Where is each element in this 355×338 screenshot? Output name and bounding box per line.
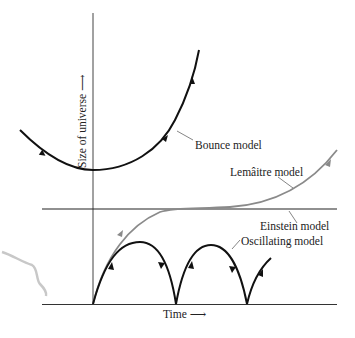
scan-artifact-mark: [2, 252, 46, 296]
oscillating-arrow-icon: [229, 266, 236, 273]
universe-models-diagram: Size of universe ⟶ Time ⟶ Bounce model L…: [0, 0, 355, 338]
bounce-model-label: Bounce model: [195, 139, 262, 151]
lemaitre-arrow-icon: [117, 230, 123, 237]
oscillating-leader-line: [232, 240, 240, 249]
x-axis-label: Time ⟶: [163, 308, 207, 320]
oscillating-model-curve: [93, 242, 176, 304]
oscillating-arrow-icon: [158, 262, 165, 269]
lemaitre-leader-line: [278, 177, 293, 188]
bounce-leader-line: [177, 131, 193, 140]
oscillating-model-curve: [247, 258, 271, 304]
oscillating-model-curve: [176, 245, 247, 304]
y-axis-label: Size of universe ⟶: [76, 74, 88, 168]
einstein-model-label: Einstein model: [260, 220, 329, 232]
lemaitre-model-label: Lemâitre model: [230, 166, 303, 178]
bounce-model-curve: [20, 50, 199, 170]
oscillating-model-label: Oscillating model: [241, 235, 323, 248]
